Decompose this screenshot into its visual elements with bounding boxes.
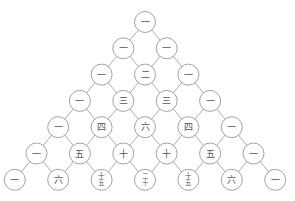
node-label: 一 <box>97 70 106 80</box>
node-label: 一 <box>206 96 215 106</box>
node-label: 五 <box>206 149 215 159</box>
node-label-part: 五 <box>98 179 105 187</box>
node-label: 一 <box>75 96 84 106</box>
triangle-node: 三 <box>156 90 177 111</box>
node-label: 一 <box>249 149 258 159</box>
node-label: 一 <box>271 175 280 185</box>
node-label-part: 十 <box>142 178 149 187</box>
triangle-node: 一 <box>156 38 177 59</box>
triangle-node: 十 <box>156 143 177 164</box>
node-label: 六 <box>54 174 63 185</box>
node-label: 二 <box>141 70 150 80</box>
triangle-node: 一 <box>200 90 221 111</box>
node-label: 五 <box>75 149 84 159</box>
triangle-node: 一 <box>178 64 199 85</box>
triangle-node: 六 <box>221 169 242 190</box>
triangle-node: 一 <box>91 64 112 85</box>
triangle-node: 十 <box>113 143 134 164</box>
triangle-node: 五 <box>200 143 221 164</box>
node-label: 三 <box>119 96 128 106</box>
triangle-node: 十五 <box>91 169 112 190</box>
triangle-node: 二十 <box>135 169 156 190</box>
node-label: 一 <box>32 149 41 159</box>
triangle-node: 六 <box>135 117 156 138</box>
nodes: 一一一一二一一三三一一四六四一一五十十五一一六十五二十十五六一 <box>4 12 285 191</box>
node-label: 一 <box>227 122 236 132</box>
triangle-node: 一 <box>265 169 286 190</box>
edges <box>15 22 275 180</box>
triangle-node: 一 <box>243 143 264 164</box>
node-label: 六 <box>227 174 236 185</box>
node-label: 一 <box>141 17 150 27</box>
pascal-triangle-diagram: 一一一一二一一三三一一四六四一一五十十五一一六十五二十十五六一 <box>0 0 295 201</box>
node-label: 四 <box>184 122 193 132</box>
triangle-node: 一 <box>4 169 25 190</box>
node-label: 一 <box>184 70 193 80</box>
triangle-node: 三 <box>113 90 134 111</box>
node-label: 一 <box>162 43 171 53</box>
node-label-part: 五 <box>185 179 192 187</box>
triangle-node: 十五 <box>178 169 199 190</box>
triangle-node: 四 <box>91 117 112 138</box>
node-label: 四 <box>97 122 106 132</box>
triangle-node: 一 <box>48 117 69 138</box>
triangle-node: 二 <box>135 64 156 85</box>
triangle-node: 一 <box>69 90 90 111</box>
triangle-node: 六 <box>48 169 69 190</box>
node-label: 十 <box>119 148 128 159</box>
triangle-node: 一 <box>221 117 242 138</box>
triangle-node: 四 <box>178 117 199 138</box>
node-label: 三 <box>162 96 171 106</box>
triangle-node: 五 <box>69 143 90 164</box>
triangle-node: 一 <box>113 38 134 59</box>
node-label: 十 <box>162 148 171 159</box>
triangle-node: 一 <box>135 12 156 33</box>
node-label: 六 <box>141 121 150 132</box>
triangle-node: 一 <box>26 143 47 164</box>
node-label: 一 <box>119 43 128 53</box>
node-label: 一 <box>54 122 63 132</box>
node-label: 一 <box>10 175 19 185</box>
